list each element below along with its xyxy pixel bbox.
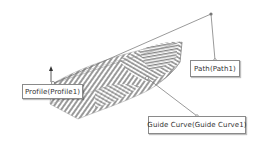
profile-callout[interactable]: Profile(Profile1) (22, 84, 83, 99)
guide-curve-callout[interactable]: Guide Curve(Guide Curve1) (148, 116, 246, 134)
path-callout-label: Path(Path1) (194, 65, 236, 73)
up-arrow-icon (49, 66, 53, 71)
guide-point-icon (145, 76, 148, 79)
profile-anchor (49, 66, 55, 85)
path-callout[interactable]: Path(Path1) (190, 60, 240, 77)
profile-callout-label: Profile(Profile1) (25, 88, 80, 96)
swept-surface (50, 42, 182, 119)
path-endpoint-icon (209, 12, 212, 15)
guide-curve-callout-label: Guide Curve(Guide Curve1) (147, 121, 246, 129)
